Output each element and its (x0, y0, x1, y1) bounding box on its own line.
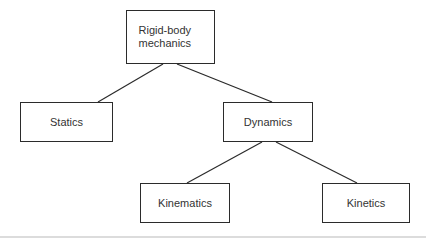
node-dynamics: Dynamics (223, 102, 313, 142)
edge-dynamics-kinetics (276, 142, 357, 183)
edge-root-statics (98, 64, 163, 102)
node-statics: Statics (20, 102, 113, 142)
tree-diagram: Rigid-body mechanics Statics Dynamics Ki… (0, 0, 426, 241)
node-label: Kinematics (158, 197, 212, 210)
node-kinematics: Kinematics (140, 183, 230, 223)
node-label: Rigid-body mechanics (139, 24, 203, 50)
node-kinetics: Kinetics (322, 183, 410, 223)
node-rigid-body-mechanics: Rigid-body mechanics (126, 10, 215, 64)
node-label: Statics (50, 116, 83, 129)
edge-root-dynamics (177, 64, 272, 102)
node-label: Dynamics (244, 116, 292, 129)
node-label: Kinetics (347, 197, 386, 210)
bottom-divider (0, 236, 426, 238)
edge-dynamics-kinematics (187, 142, 262, 183)
